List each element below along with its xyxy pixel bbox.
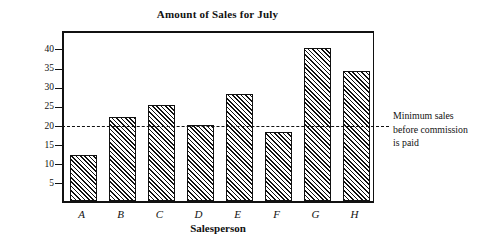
plot-frame [62,31,374,203]
bar-d [187,125,214,201]
x-axis-tick-label-h: H [335,208,375,220]
bar-c [148,105,175,201]
bar-g [304,48,331,201]
y-axis-tick-label: 30 [34,84,54,94]
bar-b [109,117,136,201]
threshold-annotation: Minimum sales before commission is paid [393,109,501,150]
bar-a [70,155,97,201]
threshold-annotation-line-2: before commission [393,123,501,137]
y-axis-tick-label: 35 [34,64,54,74]
bar-f [265,132,292,201]
x-axis-tick-label-a: A [62,208,102,220]
y-axis-tick-label: 10 [34,160,54,170]
y-axis-tick-label: 20 [34,122,54,132]
bar-e [226,94,253,201]
threshold-annotation-line-3: is paid [393,136,501,150]
x-axis-tick-label-c: C [140,208,180,220]
plot-area [64,33,373,201]
x-axis-tick-label-b: B [101,208,141,220]
y-axis-tick-label: 15 [34,141,54,151]
minimum-sales-threshold-line [62,126,389,127]
x-axis-tick-label-f: F [257,208,297,220]
y-axis-tick-label: 25 [34,103,54,113]
x-axis-tick-label-e: E [218,208,258,220]
bar-h [343,71,370,201]
x-axis-tick-label-g: G [296,208,336,220]
threshold-annotation-line-1: Minimum sales [393,109,501,123]
x-axis-tick-label-d: D [179,208,219,220]
y-axis-tick-label: 5 [34,179,54,189]
x-axis-title: Salesperson [62,222,374,234]
sales-bar-chart-figure: Amount of Sales for July Sales (in thous… [0,0,503,246]
chart-title: Amount of Sales for July [60,8,375,20]
y-axis-tick-label: 40 [34,45,54,55]
